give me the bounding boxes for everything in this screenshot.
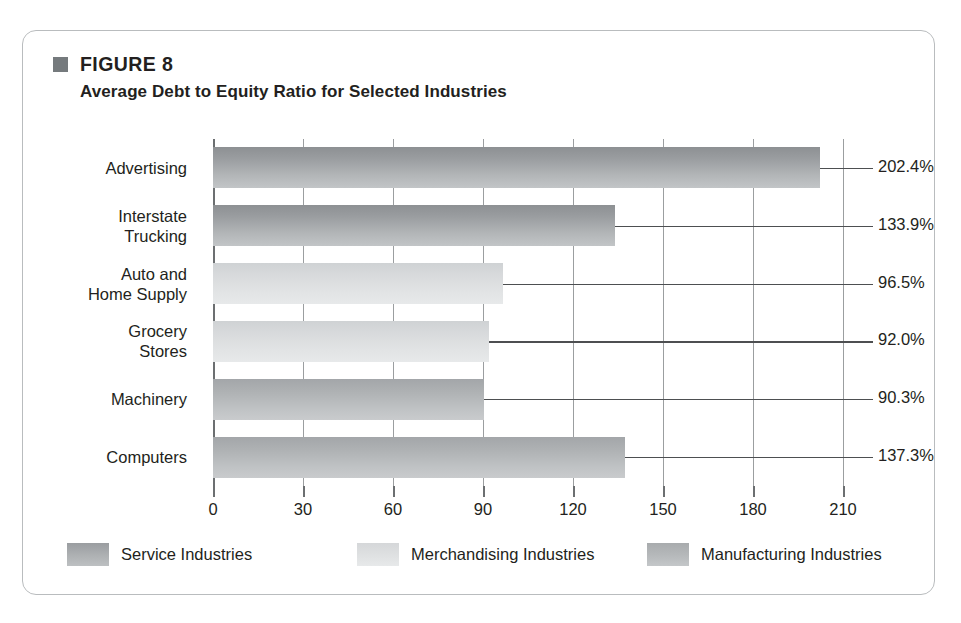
square-marker-icon [53, 57, 68, 72]
plot-wrapper: AdvertisingInterstateTruckingAuto andHom… [23, 139, 934, 594]
bar-value-label: 137.3% [878, 446, 934, 465]
category-label: GroceryStores [23, 321, 187, 361]
category-label-line: Stores [23, 341, 187, 361]
tick-mark-90 [483, 486, 485, 497]
bar [213, 147, 820, 188]
legend-label: Manufacturing Industries [701, 545, 882, 564]
legend-swatch-icon [647, 543, 689, 566]
leader-line [503, 284, 874, 285]
figure-frame: FIGURE 8 Average Debt to Equity Ratio fo… [22, 30, 935, 595]
tick-mark-210 [843, 486, 845, 497]
bar [213, 263, 503, 304]
bar-value-label: 96.5% [878, 273, 925, 292]
category-label: Advertising [23, 158, 187, 178]
gridline-180 [753, 139, 754, 486]
bar-value-label: 202.4% [878, 157, 934, 176]
leader-line [625, 457, 873, 458]
bar-value-label: 133.9% [878, 215, 934, 234]
legend-item-service[interactable]: Service Industries [67, 543, 252, 566]
category-label-line: Home Supply [23, 284, 187, 304]
x-tick-label: 90 [474, 500, 492, 519]
category-label: Computers [23, 447, 187, 467]
bar [213, 379, 484, 420]
category-label-line: Interstate [23, 206, 187, 226]
x-tick-label: 30 [294, 500, 312, 519]
category-label: Auto andHome Supply [23, 264, 187, 304]
chart-legend: Service IndustriesMerchandising Industri… [67, 543, 927, 577]
category-label-line: Trucking [23, 226, 187, 246]
gridline-210 [843, 139, 844, 486]
category-label: InterstateTrucking [23, 206, 187, 246]
gridline-60 [393, 139, 394, 486]
bar-value-label: 92.0% [878, 330, 925, 349]
bar [213, 205, 615, 246]
x-tick-label: 60 [384, 500, 402, 519]
leader-line [484, 399, 873, 400]
leader-line [820, 168, 873, 169]
figure-header: FIGURE 8 Average Debt to Equity Ratio fo… [53, 53, 873, 102]
category-label-line: Computers [23, 447, 187, 467]
category-label-line: Auto and [23, 264, 187, 284]
gridline-30 [303, 139, 304, 486]
legend-label: Merchandising Industries [411, 545, 594, 564]
category-axis-labels: AdvertisingInterstateTruckingAuto andHom… [23, 139, 187, 486]
tick-mark-120 [573, 486, 575, 497]
category-label-line: Machinery [23, 389, 187, 409]
leader-line [615, 226, 873, 227]
legend-label: Service Industries [121, 545, 252, 564]
tick-mark-0 [213, 486, 215, 497]
bar-value-label: 90.3% [878, 388, 925, 407]
x-tick-label: 210 [829, 500, 857, 519]
gridline-150 [663, 139, 664, 486]
tick-mark-60 [393, 486, 395, 497]
x-tick-label: 120 [559, 500, 587, 519]
x-tick-label: 150 [649, 500, 677, 519]
category-label: Machinery [23, 389, 187, 409]
tick-mark-180 [753, 486, 755, 497]
figure-number: FIGURE 8 [80, 53, 173, 76]
category-label-line: Grocery [23, 321, 187, 341]
tick-mark-150 [663, 486, 665, 497]
chart-title: Average Debt to Equity Ratio for Selecte… [80, 82, 873, 102]
leader-line [489, 341, 873, 342]
x-tick-label: 0 [208, 500, 217, 519]
figure-label-row: FIGURE 8 [53, 53, 873, 76]
gridline-90 [483, 139, 484, 486]
bar [213, 437, 625, 478]
bar [213, 321, 489, 362]
legend-swatch-icon [67, 543, 109, 566]
x-tick-label: 180 [739, 500, 767, 519]
legend-item-merchandising[interactable]: Merchandising Industries [357, 543, 594, 566]
gridline-0 [213, 139, 215, 486]
legend-swatch-icon [357, 543, 399, 566]
gridline-120 [573, 139, 574, 486]
legend-item-manufacturing[interactable]: Manufacturing Industries [647, 543, 882, 566]
tick-mark-30 [303, 486, 305, 497]
category-label-line: Advertising [23, 158, 187, 178]
plot-area: 0306090120150180210 [213, 139, 843, 486]
